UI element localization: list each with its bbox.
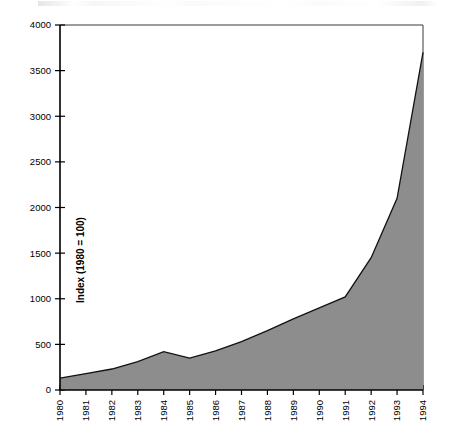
y-tick-label: 4000 [30,19,51,30]
index-area-chart: 05001000150020002500300035004000 1980198… [0,0,453,436]
x-tick-label: 1983 [132,400,143,421]
x-tick-label: 1990 [314,400,325,421]
y-tick-label: 0 [46,384,51,395]
x-tick-label: 1984 [158,400,169,421]
y-tick-label: 1000 [30,293,51,304]
y-tick-label: 1500 [30,248,51,259]
x-tick-label: 1987 [236,400,247,421]
x-tick-label: 1980 [54,400,65,421]
y-tick-label: 3000 [30,111,51,122]
x-tick-label: 1994 [417,400,428,421]
x-tick-label: 1988 [262,400,273,421]
x-tick-label: 1989 [288,400,299,421]
y-tick-label: 2500 [30,156,51,167]
x-tick-label: 1986 [210,400,221,421]
x-tick-label: 1991 [340,400,351,421]
x-tick-label: 1985 [184,400,195,421]
y-tick-label: 500 [35,339,51,350]
y-axis-tick-labels: 05001000150020002500300035004000 [30,19,51,395]
x-tick-label: 1993 [391,400,402,421]
x-tick-label: 1992 [366,400,377,421]
y-axis-title: Index (1980 = 100) [75,217,86,303]
y-tick-label: 2000 [30,202,51,213]
y-tick-label: 3500 [30,65,51,76]
chart-figure: 05001000150020002500300035004000 1980198… [0,0,453,436]
data-series-area [60,52,423,390]
x-tick-label: 1981 [80,400,91,421]
x-axis-tick-labels: 1980198119821983198419851986198719881989… [54,400,428,421]
y-axis-title-text: Index (1980 = 100) [75,217,86,303]
x-tick-label: 1982 [106,400,117,421]
